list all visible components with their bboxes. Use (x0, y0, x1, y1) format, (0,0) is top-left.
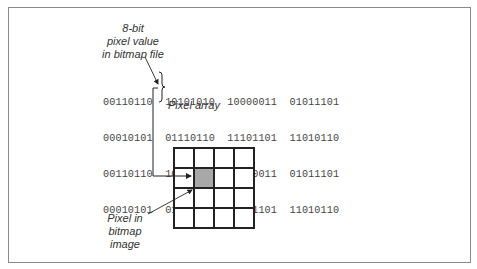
pixel-image-pointer-arrow (148, 190, 192, 214)
connector-lines (0, 0, 477, 269)
pixel-array-bracket (159, 72, 165, 102)
pixel-value-pointer-arrow (145, 57, 158, 84)
byte-to-pixel-connector (153, 88, 191, 176)
